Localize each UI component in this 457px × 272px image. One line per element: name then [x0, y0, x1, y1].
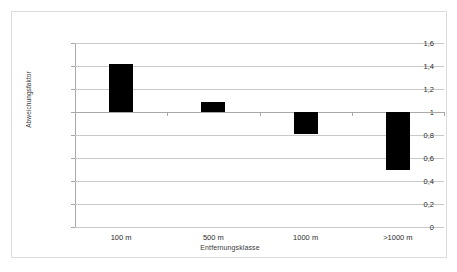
plot-area: 1,61,41,210,80,60,40,20 100 m500 m1000 m… [75, 43, 444, 227]
category-tick [167, 112, 168, 116]
category-tick [444, 112, 445, 116]
x-tick-label: 500 m [168, 233, 258, 242]
category-tick [352, 112, 353, 116]
y-tick-mark [71, 227, 75, 228]
x-axis-title: Entfernungsklasse [12, 244, 448, 251]
y-tick-label: 1,4 [374, 62, 434, 71]
y-tick-label: 1,6 [374, 39, 434, 48]
bar [294, 112, 318, 134]
y-axis-title: Abweichungsfaktor [25, 40, 32, 160]
y-tick-label: 0,4 [374, 177, 434, 186]
y-tick-mark [71, 43, 75, 44]
y-tick-label: 1,2 [374, 85, 434, 94]
category-tick [260, 112, 261, 116]
category-tick [75, 112, 76, 116]
bar [109, 64, 133, 112]
y-tick-mark [71, 135, 75, 136]
x-tick-label: 1000 m [261, 233, 351, 242]
y-tick-mark [71, 89, 75, 90]
y-tick-mark [71, 66, 75, 67]
y-tick-mark [71, 181, 75, 182]
x-tick-label: >1000 m [353, 233, 443, 242]
y-tick-mark [71, 158, 75, 159]
bar [386, 112, 410, 170]
x-tick-label: 100 m [76, 233, 166, 242]
bar [201, 102, 225, 112]
y-tick-mark [71, 204, 75, 205]
y-tick-label: 0 [374, 223, 434, 232]
y-tick-label: 0,2 [374, 200, 434, 209]
chart-frame: Abweichungsfaktor Entfernungsklasse 1,61… [11, 11, 447, 258]
